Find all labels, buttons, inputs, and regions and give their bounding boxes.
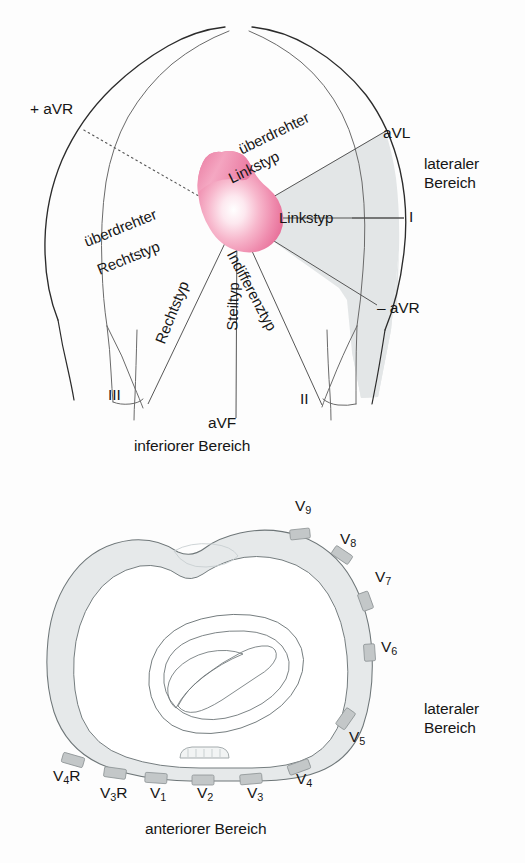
electrode-letter-v4r: V	[53, 767, 63, 784]
electrode-pad-v6[interactable]	[363, 644, 375, 662]
electrode-letter-v9: V	[295, 497, 305, 514]
electrode-letter-v6: V	[381, 638, 391, 655]
electrode-letter-v5: V	[349, 728, 359, 745]
label-electrode-v7: V7	[375, 568, 391, 588]
electrode-index-v9: 9	[305, 504, 311, 516]
label-bottom-lateral-region-line2: Bereich	[424, 719, 476, 736]
electrode-index-v1: 1	[160, 791, 166, 803]
electrode-pad-v9[interactable]	[290, 528, 311, 540]
label-electrode-v2: V2	[197, 784, 213, 804]
torso-outline-left	[45, 27, 225, 320]
electrode-letter-v7: V	[375, 568, 385, 585]
label-avf: aVF	[208, 414, 236, 431]
electrode-letter-v3r: V	[100, 784, 110, 801]
label-lateral-region-line2: Bereich	[424, 174, 476, 191]
electrode-letter-v4: V	[296, 770, 306, 787]
label-electrode-v4r: V4R	[53, 767, 80, 787]
arm-left-outer	[58, 320, 74, 400]
electrode-index-v7: 7	[385, 575, 391, 587]
bottom-thorax-group	[47, 528, 376, 785]
label-minus-avr: – aVR	[377, 299, 420, 316]
electrode-index-v2: 2	[207, 791, 213, 803]
label-avl: aVL	[383, 124, 410, 141]
label-lateral-region-line1: lateraler	[424, 155, 479, 172]
leg-right-inner	[323, 399, 356, 405]
label-electrode-v8: V8	[340, 530, 356, 550]
electrode-suffix-v3r: R	[116, 784, 127, 801]
electrode-letter-v8: V	[340, 530, 350, 547]
electrode-index-v6: 6	[391, 645, 397, 657]
label-electrode-v3: V3	[247, 784, 263, 804]
electrode-index-v3: 3	[257, 791, 263, 803]
electrode-index-v4: 4	[306, 777, 312, 789]
electrode-index-v8: 8	[350, 537, 356, 549]
label-electrode-v6: V6	[381, 638, 397, 658]
label-lead-iii: III	[108, 386, 121, 403]
top-thorax-group	[45, 27, 406, 420]
leg-right-outer	[327, 330, 331, 420]
label-inferior-region: inferiorer Bereich	[134, 437, 250, 454]
electrode-letter-v1: V	[150, 784, 160, 801]
label-electrode-v9: V9	[295, 497, 311, 517]
label-plus-avr: + aVR	[30, 100, 73, 117]
electrode-letter-v3: V	[247, 784, 257, 801]
electrode-pad-v1[interactable]	[145, 772, 168, 784]
label-lead-ii: II	[300, 390, 308, 407]
electrode-pad-v4r[interactable]	[61, 752, 85, 768]
label-electrode-v4: V4	[296, 770, 312, 790]
figure-root: + aVR aVL lateraler Bereich I – aVR III …	[0, 0, 525, 863]
thorax-cavity-inner	[74, 557, 348, 769]
label-bottom-lateral-region-line1: lateraler	[424, 700, 479, 717]
electrode-index-v5: 5	[359, 735, 365, 747]
label-steiltyp: Steiltyp	[224, 282, 242, 331]
label-anterior-region: anteriorer Bereich	[145, 820, 266, 837]
spine-notch	[180, 747, 229, 758]
electrode-suffix-v4r: R	[69, 767, 80, 784]
leg-left-outer	[134, 330, 137, 420]
label-electrode-v1: V1	[150, 784, 166, 804]
label-lead-i: I	[409, 208, 413, 225]
label-linkstyp: Linkstyp	[279, 210, 333, 227]
label-electrode-v5: V5	[349, 728, 365, 748]
electrode-letter-v2: V	[197, 784, 207, 801]
label-electrode-v3r: V3R	[100, 784, 127, 804]
